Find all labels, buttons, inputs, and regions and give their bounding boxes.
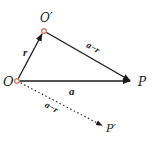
point-O-prime-marker [42, 29, 47, 34]
vector-a-minus-r [44, 31, 130, 81]
label-vector-r: r [23, 46, 28, 58]
label-O-prime: O′ [40, 11, 53, 25]
label-P-prime: P′ [105, 122, 116, 135]
label-vector-a-minus-r: a−r [85, 40, 102, 56]
vector-a-minus-r-translated [17, 81, 102, 126]
vector-r [17, 34, 42, 81]
label-vector-a-minus-r-translated: a−r [43, 100, 60, 116]
label-P: P [137, 75, 147, 89]
point-O-marker [15, 79, 20, 84]
vector-diagram: O O′ P P′ r a−r a a−r [0, 0, 155, 144]
label-vector-a: a [69, 85, 75, 97]
label-O: O [3, 74, 14, 89]
